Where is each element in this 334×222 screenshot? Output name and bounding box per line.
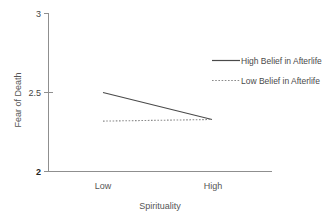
line-chart: 3 2.5 2 Fear of Death Low High Spiritual…: [0, 0, 334, 222]
legend-label-low-belief: Low Belief in Afterlife: [241, 76, 320, 86]
legend-label-high-belief: High Belief in Afterlife: [241, 56, 322, 66]
chart-container: 3 2.5 2 Fear of Death Low High Spiritual…: [0, 0, 334, 222]
y-tick-label-2: 2: [36, 167, 41, 177]
x-tick-label-low: Low: [95, 181, 112, 191]
series-line-high-belief: [103, 93, 212, 120]
y-tick-label-2-5: 2.5: [28, 88, 41, 98]
x-tick-label-high: High: [204, 181, 223, 191]
x-axis-title: Spirituality: [139, 201, 181, 211]
y-tick-label-3: 3: [36, 9, 41, 19]
y-axis-title: Fear of Death: [13, 72, 23, 127]
series-line-low-belief: [103, 120, 212, 122]
